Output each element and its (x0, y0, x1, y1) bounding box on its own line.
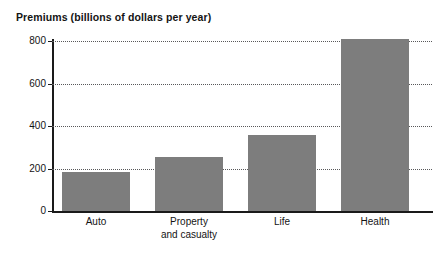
y-axis-tick-labels: 800 600 400 200 0 (0, 41, 46, 211)
plot-area (52, 41, 432, 211)
x-axis-category-labels: Auto Property and casualty Life Health (52, 216, 432, 256)
y-tick-label-200: 200 (6, 164, 46, 174)
tick-mark-200 (48, 169, 52, 170)
chart-figure: Premiums (billions of dollars per year) … (0, 0, 446, 259)
x-label-auto-line1: Auto (86, 216, 107, 227)
x-label-property-and-casualty: Property and casualty (155, 216, 223, 241)
y-tick-label-600: 600 (6, 79, 46, 89)
tick-mark-600 (48, 84, 52, 85)
bar-property-and-casualty (155, 157, 223, 211)
x-label-health: Health (341, 216, 409, 229)
x-label-health-line1: Health (361, 216, 390, 227)
bar-health (341, 39, 409, 211)
x-label-property-line1: Property (170, 216, 208, 227)
chart-title: Premiums (billions of dollars per year) (16, 11, 211, 23)
x-label-life: Life (248, 216, 316, 229)
y-tick-label-400: 400 (6, 121, 46, 131)
bar-life (248, 135, 316, 212)
tick-mark-400 (48, 126, 52, 127)
x-axis-line (52, 211, 433, 213)
y-tick-label-800: 800 (6, 36, 46, 46)
y-tick-label-0: 0 (6, 206, 46, 216)
tick-mark-800 (48, 41, 52, 42)
x-label-life-line1: Life (274, 216, 290, 227)
bar-auto (62, 172, 130, 211)
tick-mark-0 (48, 211, 52, 212)
x-label-auto: Auto (62, 216, 130, 229)
x-label-property-line2: and casualty (155, 229, 223, 242)
